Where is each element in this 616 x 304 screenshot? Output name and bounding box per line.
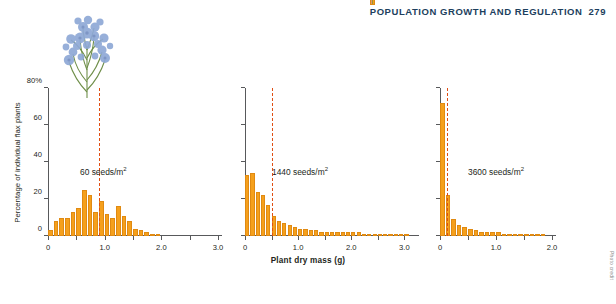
y-axis-label: Percentage of individual flax plants (13, 68, 22, 258)
histogram-bar (462, 227, 467, 236)
x-tick (245, 236, 246, 240)
histogram-bar (346, 232, 350, 236)
y-tick (44, 198, 48, 199)
histogram-bar (282, 223, 286, 236)
x-tick-label: 1.0 (293, 243, 304, 252)
histogram-bar (245, 175, 249, 236)
x-tick (76, 236, 77, 240)
histogram-bar (116, 206, 121, 236)
histogram-bar (388, 234, 392, 236)
x-tick-label: 2.0 (156, 243, 167, 252)
histogram-bar (474, 230, 479, 236)
histogram-bar (59, 218, 64, 237)
histogram-bar (266, 205, 270, 236)
panel-title-text: 60 seeds/m (80, 167, 123, 177)
panel-title: 3600 seeds/m2 (468, 166, 524, 177)
x-tick-label: 0 (46, 243, 50, 252)
histogram-bar (293, 227, 297, 236)
y-tick (44, 124, 48, 125)
x-tick (133, 236, 134, 240)
histogram-bar (341, 232, 345, 236)
histogram-bar (48, 230, 53, 236)
histogram-bar (496, 232, 501, 236)
histogram-bar (383, 234, 387, 236)
histogram-bar (156, 234, 161, 236)
histogram-bar (133, 229, 138, 236)
histogram-bar (314, 230, 318, 236)
y-tick (241, 87, 245, 88)
histogram-bar (303, 229, 307, 236)
x-tick (440, 236, 441, 240)
histogram-bar (139, 230, 144, 236)
histogram-bar (440, 103, 445, 236)
x-tick (351, 236, 352, 240)
panel-title-exponent: 2 (123, 166, 126, 172)
histogram-bar (530, 234, 535, 236)
histogram-bar (82, 190, 87, 236)
histogram-bar (490, 232, 495, 236)
mean-line (99, 88, 100, 236)
histogram-bar (351, 232, 355, 236)
histogram-bar (288, 225, 292, 236)
y-tick (241, 161, 245, 162)
chart-panel: 01.02.03.0 (245, 88, 415, 248)
x-tick (325, 236, 326, 240)
histogram-bar (404, 234, 408, 236)
histogram-bar (507, 234, 512, 236)
histogram-bar (373, 234, 377, 236)
histogram-bar (88, 195, 93, 236)
histogram-bar (54, 221, 59, 236)
histogram-bar (513, 234, 518, 236)
histogram-bar (65, 218, 70, 237)
photo-credit: Photo credit (609, 251, 615, 280)
x-tick (552, 236, 553, 240)
x-tick (468, 236, 469, 240)
histogram-bar (330, 232, 334, 236)
histogram-bar (367, 234, 371, 236)
x-tick (190, 236, 191, 240)
panel-title-exponent: 2 (325, 166, 328, 172)
histogram-bar (399, 234, 403, 236)
panel-title-text: 3600 seeds/m (468, 167, 521, 177)
x-tick (161, 236, 162, 240)
x-tick (496, 236, 497, 240)
histogram-bar (250, 173, 254, 236)
histogram-bar (71, 212, 76, 236)
panel-title-exponent: 2 (521, 166, 524, 172)
histogram-bar (378, 234, 382, 236)
y-tick (241, 124, 245, 125)
histogram-bar (394, 234, 398, 236)
histogram-bar (150, 234, 155, 236)
panel-title: 1440 seeds/m2 (272, 166, 328, 177)
panel-title-text: 1440 seeds/m (272, 167, 325, 177)
x-tick (378, 236, 379, 240)
histogram-bar (93, 212, 98, 236)
histogram-bar (122, 216, 127, 236)
x-tick-label: 1.0 (491, 243, 502, 252)
running-head: POPULATION GROWTH AND REGULATION | 279 (370, 6, 606, 17)
histogram-bar (535, 234, 540, 236)
x-tick (404, 236, 405, 240)
histogram-bar (127, 221, 132, 236)
x-tick (524, 236, 525, 240)
histogram-bar (357, 232, 361, 236)
page-number: 279 (588, 6, 606, 17)
histogram-bar (362, 234, 366, 236)
x-tick-label: 0 (243, 243, 247, 252)
y-tick (44, 87, 48, 88)
running-head-title: POPULATION GROWTH AND REGULATION (370, 6, 583, 17)
y-tick (44, 161, 48, 162)
flax-plant-photo-icon (33, 0, 141, 100)
y-tick-label: 20 (34, 186, 42, 195)
histogram-bar (524, 234, 529, 236)
x-tick (105, 236, 106, 240)
histogram-bar (105, 214, 110, 236)
y-tick-label: 40 (34, 149, 42, 158)
histogram-bar (541, 234, 546, 236)
histogram-bar (485, 232, 490, 236)
x-axis-label: Plant dry mass (g) (0, 256, 616, 265)
histogram-bar (325, 232, 329, 236)
x-tick-label: 3.0 (399, 243, 410, 252)
histogram-bar (518, 234, 523, 236)
histogram-bar (468, 229, 473, 236)
